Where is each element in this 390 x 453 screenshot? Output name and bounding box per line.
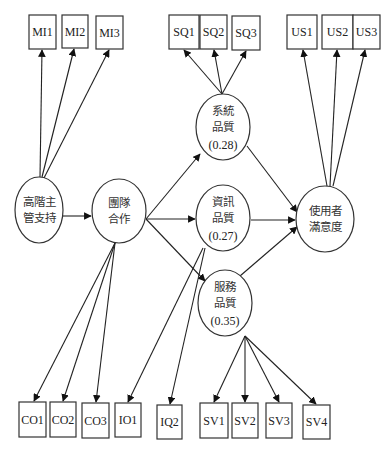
observed-co3: CO3 [82, 403, 109, 438]
latent-ellipse [296, 186, 354, 252]
edge-teamwork-to-CO1 [34, 243, 115, 401]
observed-label: MI1 [32, 25, 53, 39]
latent-coefficient: (0.28) [209, 138, 238, 152]
edge-sys_quality-to-SQ3 [222, 51, 246, 94]
edge-svc_quality-to-user_sat [240, 227, 297, 276]
observed-label: IO1 [119, 413, 138, 427]
arrow-icon [34, 243, 115, 401]
observed-label: SV3 [268, 414, 289, 428]
arrow-icon [333, 50, 365, 186]
observed-sq1: SQ1 [169, 15, 199, 49]
latent-label-line: 高階主 [23, 195, 56, 209]
arrow-icon [330, 50, 337, 186]
arrow-icon [222, 51, 246, 94]
arrow-icon [44, 50, 109, 178]
observed-iq2: IQ2 [157, 405, 182, 439]
arrow-icon [303, 50, 327, 186]
observed-label: SV1 [203, 414, 224, 428]
latent-label-line: 團隊 [108, 196, 131, 210]
observed-mi1: MI1 [29, 15, 56, 49]
edge-svc_quality-to-SV4 [245, 336, 316, 404]
latent-info-quality: 資訊品質(0.27) [196, 185, 250, 251]
observed-label: US1 [291, 25, 312, 39]
latent-label-line: 品質 [214, 296, 236, 310]
edge-teamwork-to-CO2 [63, 243, 115, 401]
latent-user-sat: 使用者滿意度 [296, 186, 354, 252]
latent-ellipse [92, 179, 146, 243]
diagram-svg: MI1MI2MI3SQ1SQ2SQ3US1US2US3CO1CO2CO3IO1I… [0, 0, 390, 453]
latent-svc-quality: 服務品質(0.35) [198, 270, 252, 336]
edge-svc_quality-to-SV3 [245, 336, 279, 402]
observed-mi3: MI3 [96, 16, 123, 49]
edge-sys_quality-to-SQ1 [184, 50, 222, 94]
latent-label-line: 管支持 [23, 211, 57, 225]
observed-co2: CO2 [50, 402, 76, 437]
edge-user_sat-to-US1 [303, 50, 327, 186]
observed-label: SQ1 [173, 25, 194, 39]
observed-label: CO1 [21, 413, 44, 427]
arrow-icon [247, 146, 297, 212]
observed-label: SQ3 [235, 26, 256, 40]
edge-info_quality-to-IO1 [128, 248, 203, 402]
latent-label-line: 使用者 [309, 204, 342, 218]
observed-us3: US3 [353, 15, 380, 49]
latent-label-line: 合作 [108, 212, 131, 226]
latent-constructs-layer: 高階主管支持團隊合作系統品質(0.28)資訊品質(0.27)服務品質(0.35)… [15, 94, 354, 336]
latent-coefficient: (0.35) [211, 314, 240, 328]
observed-sq2: SQ2 [200, 15, 227, 49]
edge-info_quality-to-IQ2 [170, 248, 205, 404]
sem-path-diagram: MI1MI2MI3SQ1SQ2SQ3US1US2US3CO1CO2CO3IO1I… [0, 0, 390, 453]
edge-user_sat-to-US2 [330, 50, 337, 186]
arrow-icon [146, 219, 205, 281]
edge-sys_quality-to-SQ2 [214, 50, 222, 94]
edge-teamwork-to-svc_quality [146, 219, 205, 281]
observed-label: CO3 [84, 414, 107, 428]
arrow-icon [146, 154, 200, 219]
edge-teamwork-to-CO3 [96, 243, 115, 402]
observed-us1: US1 [287, 15, 317, 49]
latent-label-line: 品質 [212, 211, 234, 225]
edge-teamwork-to-sys_quality [146, 154, 200, 219]
arrow-icon [240, 227, 297, 276]
observed-sv2: SV2 [232, 403, 258, 438]
latent-label-line: 服務 [214, 280, 237, 294]
observed-label: SQ2 [203, 25, 224, 39]
observed-sv3: SV3 [266, 403, 292, 438]
observed-co1: CO1 [19, 402, 46, 437]
arrow-icon [63, 243, 115, 401]
observed-sq3: SQ3 [232, 16, 260, 50]
edge-top_mgmt-to-MI1 [40, 50, 42, 177]
latent-sys-quality: 系統品質(0.28) [196, 94, 250, 160]
arrow-icon [184, 50, 222, 94]
observed-label: SV2 [234, 414, 255, 428]
observed-label: IQ2 [160, 415, 179, 429]
arrow-icon [214, 50, 222, 94]
observed-io1: IO1 [115, 403, 141, 437]
latent-label-line: 資訊 [212, 195, 235, 209]
observed-label: MI3 [99, 26, 120, 40]
observed-label: US3 [356, 25, 377, 39]
arrow-icon [96, 243, 115, 402]
latent-top-mgmt: 高階主管支持 [15, 177, 63, 243]
arrow-icon [40, 50, 42, 177]
observed-label: MI2 [65, 25, 86, 39]
edge-top_mgmt-to-MI3 [44, 50, 109, 178]
observed-sv4: SV4 [303, 405, 330, 439]
observed-mi2: MI2 [62, 15, 88, 48]
edge-svc_quality-to-SV1 [214, 336, 245, 402]
latent-label-line: 滿意度 [309, 220, 343, 234]
arrow-icon [42, 49, 74, 177]
arrow-icon [214, 336, 245, 402]
latent-ellipse [15, 177, 63, 243]
latent-label-line: 品質 [212, 120, 234, 134]
observed-us2: US2 [322, 15, 353, 49]
observed-label: CO2 [52, 413, 75, 427]
edge-top_mgmt-to-MI2 [42, 49, 74, 177]
observed-label: SV4 [306, 415, 327, 429]
observed-label: US2 [327, 25, 348, 39]
latent-coefficient: (0.27) [209, 229, 238, 243]
arrow-icon [245, 336, 279, 402]
edge-user_sat-to-US3 [333, 50, 365, 186]
arrow-icon [245, 336, 316, 404]
arrow-icon [170, 248, 205, 404]
